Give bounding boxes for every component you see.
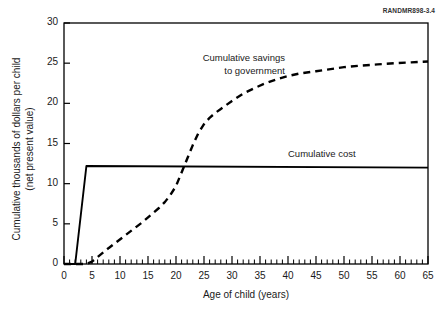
data-series xyxy=(64,62,428,264)
y-tick-label-10: 10 xyxy=(36,177,58,188)
y-tick-label-25: 25 xyxy=(36,56,58,67)
x-axis-title: Age of child (years) xyxy=(64,289,428,301)
x-tick-label-5: 5 xyxy=(81,270,103,281)
x-tick-label-15: 15 xyxy=(137,270,159,281)
y-axis-title-line1: Cumulative thousands of dollars per chil… xyxy=(11,58,22,241)
x-tick-label-45: 45 xyxy=(305,270,327,281)
figure-container: RANDMR898-3.4 Cumulative thousands of do… xyxy=(0,0,443,310)
y-tick-label-20: 20 xyxy=(36,96,58,107)
y-axis-title: Cumulative thousands of dollars per chil… xyxy=(10,19,36,279)
y-axis-title-line2: (net present value) xyxy=(24,107,35,190)
x-tick-label-25: 25 xyxy=(193,270,215,281)
x-tick-label-20: 20 xyxy=(165,270,187,281)
annotation-cumulative-cost: Cumulative cost xyxy=(288,148,398,161)
series-line-2 xyxy=(64,62,428,264)
x-tick-label-10: 10 xyxy=(109,270,131,281)
x-tick-label-40: 40 xyxy=(277,270,299,281)
x-tick-label-60: 60 xyxy=(389,270,411,281)
y-tick-label-15: 15 xyxy=(36,137,58,148)
y-tick-label-0: 0 xyxy=(36,257,58,268)
x-tick-label-0: 0 xyxy=(53,270,75,281)
y-axis-title-wrapper: Cumulative thousands of dollars per chil… xyxy=(10,19,36,279)
x-tick-label-35: 35 xyxy=(249,270,271,281)
y-tick-label-30: 30 xyxy=(36,16,58,27)
series-line-1 xyxy=(64,166,428,264)
x-tick-label-55: 55 xyxy=(361,270,383,281)
x-tick-label-50: 50 xyxy=(333,270,355,281)
y-tick-label-5: 5 xyxy=(36,217,58,228)
x-tick-label-65: 65 xyxy=(417,270,439,281)
annotation-cumulative-savings: Cumulative savings to government xyxy=(155,52,285,77)
x-tick-label-30: 30 xyxy=(221,270,243,281)
